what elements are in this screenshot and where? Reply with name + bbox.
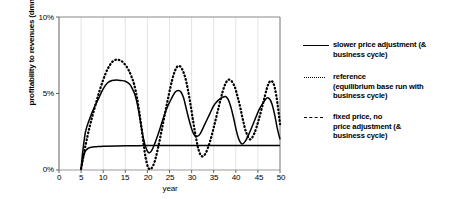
chart-legend: slower price adjustment (& business cycl… bbox=[303, 40, 450, 154]
legend-line-2: price adjustment (& bbox=[333, 122, 401, 131]
legend-line-2: business cycle) bbox=[333, 50, 387, 59]
dotted-line-marker-icon bbox=[303, 72, 329, 83]
series-line-2 bbox=[81, 145, 280, 170]
legend-line-2: (equilibrium base run with bbox=[333, 82, 424, 91]
dashed-line-marker-icon bbox=[303, 112, 329, 123]
legend-line-1: slower price adjustment (& bbox=[333, 40, 426, 49]
legend-item-slower-price-adjustment: slower price adjustment (& business cycl… bbox=[303, 40, 450, 59]
chart-figure: profitability to revenues (dmnl) 10% 5% … bbox=[0, 0, 450, 199]
series-line-0 bbox=[81, 80, 280, 170]
series-line-1 bbox=[81, 60, 280, 170]
legend-item-reference: reference (equilibrium base run with bus… bbox=[303, 72, 450, 101]
legend-item-label: fixed price, no price adjustment (& busi… bbox=[333, 112, 401, 141]
legend-item-label: slower price adjustment (& business cycl… bbox=[333, 40, 426, 59]
legend-item-fixed-price: fixed price, no price adjustment (& busi… bbox=[303, 112, 450, 141]
legend-line-3: business cycle) bbox=[333, 131, 387, 140]
solid-line-marker-icon bbox=[303, 40, 329, 51]
legend-line-1: fixed price, no bbox=[333, 112, 382, 121]
legend-line-1: reference bbox=[333, 72, 366, 81]
legend-line-3: business cycle) bbox=[333, 91, 387, 100]
legend-item-label: reference (equilibrium base run with bus… bbox=[333, 72, 424, 101]
